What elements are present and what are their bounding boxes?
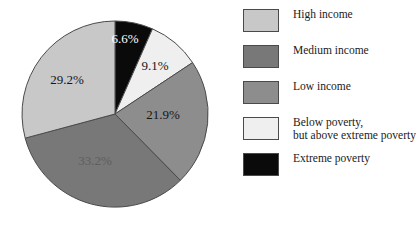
- legend-item-medium-income[interactable]: Medium income: [243, 44, 369, 68]
- legend-label-extreme-poverty: Extreme poverty: [293, 152, 370, 165]
- pie-label-low-income: 21.9%: [146, 107, 180, 122]
- legend-label-below-poverty-line1: Below poverty,: [293, 116, 363, 128]
- pie-chart-svg: 6.6% 9.1% 21.9% 33.2% 29.2%: [0, 0, 230, 225]
- pie-label-high-income: 29.2%: [50, 72, 84, 87]
- legend-swatch-below-poverty: [243, 117, 279, 140]
- legend-label-high-income: High income: [293, 8, 353, 21]
- legend-item-extreme-poverty[interactable]: Extreme poverty: [243, 152, 370, 176]
- legend: High income Medium income Low income Bel…: [243, 8, 401, 178]
- legend-swatch-medium-income: [243, 45, 279, 68]
- legend-item-high-income[interactable]: High income: [243, 8, 353, 32]
- pie-chart-area: 6.6% 9.1% 21.9% 33.2% 29.2%: [0, 0, 230, 225]
- legend-item-low-income[interactable]: Low income: [243, 80, 351, 104]
- legend-swatch-low-income: [243, 81, 279, 104]
- legend-item-below-poverty[interactable]: Below poverty, but above extreme poverty: [243, 116, 416, 142]
- legend-label-low-income-line1: Low income: [293, 80, 351, 92]
- legend-label-low-income: Low income: [293, 80, 351, 93]
- legend-label-below-poverty: Below poverty, but above extreme poverty: [293, 116, 416, 142]
- legend-label-high-income-line1: High income: [293, 8, 353, 20]
- pie-label-below-poverty: 9.1%: [141, 58, 168, 73]
- pie-label-medium-income: 33.2%: [78, 153, 112, 168]
- legend-label-medium-income: Medium income: [293, 44, 369, 57]
- legend-swatch-high-income: [243, 9, 279, 32]
- legend-swatch-extreme-poverty: [243, 153, 279, 176]
- legend-label-extreme-poverty-line1: Extreme poverty: [293, 152, 370, 164]
- pie-slices: [22, 21, 208, 207]
- legend-label-medium-income-line1: Medium income: [293, 44, 369, 56]
- pie-label-extreme-poverty: 6.6%: [111, 31, 138, 46]
- legend-label-below-poverty-line2: but above extreme poverty: [293, 129, 416, 142]
